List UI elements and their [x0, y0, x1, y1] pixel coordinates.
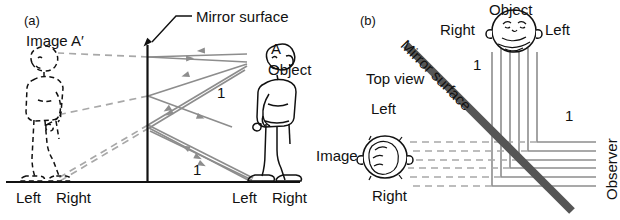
observer-label: Observer	[604, 138, 619, 200]
image-head-figure	[357, 136, 413, 178]
image-label-b: Image	[316, 148, 358, 163]
ray-label-b-object: 1	[473, 57, 481, 72]
ray-label-b-observer: 1	[565, 108, 573, 123]
image-right-label-b: Right	[372, 188, 407, 203]
virtual-ray-group-b	[408, 142, 537, 186]
panel-b-id: (b)	[360, 14, 376, 27]
object-label-b: Object	[489, 2, 532, 17]
top-view-label: Top view	[366, 71, 424, 86]
object-right-label-b: Right	[440, 22, 475, 37]
image-left-label-b: Left	[371, 101, 396, 116]
object-left-label-b: Left	[545, 22, 570, 37]
